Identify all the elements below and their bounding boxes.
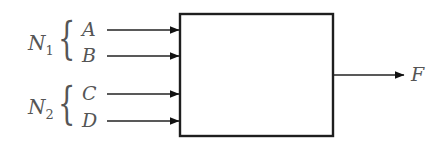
brace-n1-icon: { [58,13,75,65]
input-label-b: B [81,44,96,66]
input-label-c: C [82,82,97,104]
brace-n2-icon: { [58,78,75,130]
group-label-n2: N2 [27,95,54,122]
input-label-a: A [80,18,96,40]
output: F [334,63,425,85]
function-block [180,14,333,136]
input-group-n2: N2 { C D [27,78,179,131]
logic-block-diagram: N1 { A B N2 { C D F [0,0,439,146]
output-label-f: F [410,63,425,85]
group-label-n1: N1 [27,31,54,58]
input-label-d: D [81,109,97,131]
input-group-n1: N1 { A B [27,13,179,66]
